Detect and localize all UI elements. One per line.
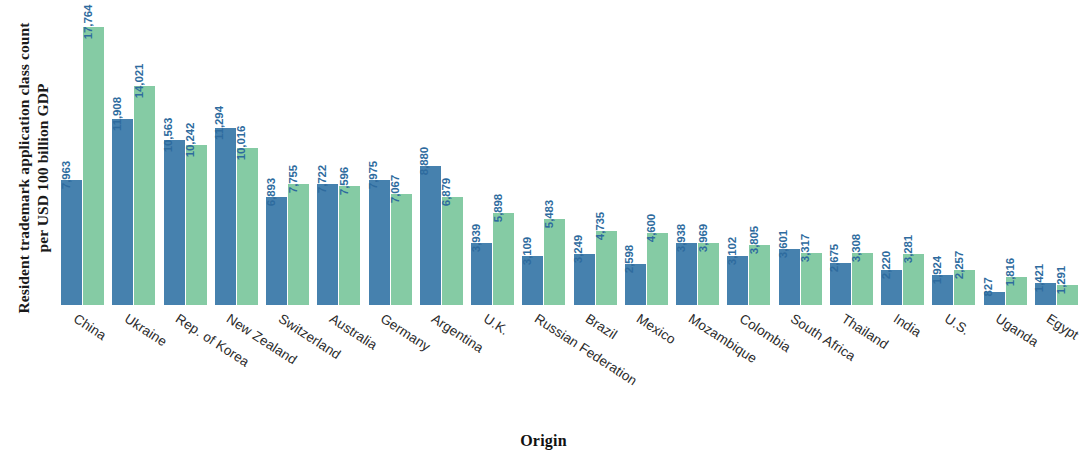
bar-group: 3,6013,317: [779, 14, 822, 305]
bar-value-label-holder: 3,938: [676, 195, 697, 241]
bar: [237, 148, 258, 305]
bar-value-label: 5,898: [492, 194, 504, 222]
bar-value-label-holder: 2,220: [881, 222, 902, 268]
bar: [420, 166, 441, 305]
bar-value-label-holder: 3,102: [727, 208, 748, 254]
bar-value-label: 7,963: [60, 161, 72, 189]
bar-value-label: 3,109: [521, 237, 533, 265]
bar-value-label-holder: 2,598: [625, 216, 646, 262]
bar-value-label-holder: 5,483: [544, 171, 565, 217]
bar-group: 3,9383,969: [676, 14, 719, 305]
bar-value-label-holder: 3,317: [801, 205, 822, 251]
bar-value-label: 10,016: [235, 126, 247, 161]
bar-value-label: 7,975: [367, 161, 379, 189]
bar-value-label-holder: 827: [984, 244, 1005, 290]
bar-value-label: 3,102: [726, 237, 738, 265]
bar: [647, 233, 668, 305]
bar-value-label: 2,220: [880, 251, 892, 279]
bar-value-label-holder: 7,975: [369, 132, 390, 178]
bar-group: 3,1095,483: [522, 14, 565, 305]
bar-value-label-holder: 10,016: [237, 100, 258, 146]
bar-value-label: 17,764: [82, 5, 94, 40]
bar-value-label-holder: 11,908: [112, 71, 133, 117]
bar-value-label-holder: 1,924: [932, 227, 953, 273]
bar-value-label-holder: 2,257: [954, 222, 975, 268]
bar-group: 1,4211,291: [1035, 14, 1078, 305]
bar-value-label: 3,601: [777, 230, 789, 258]
bar: [215, 128, 236, 305]
bar-value-label: 1,291: [1055, 266, 1067, 294]
bar-value-label-holder: 7,963: [61, 132, 82, 178]
bar-group: 8271,816: [984, 14, 1027, 305]
bar-value-label: 10,563: [162, 117, 174, 152]
bar: [339, 186, 360, 305]
bar: [596, 231, 617, 305]
bar-group: 8,8806,879: [420, 14, 463, 305]
bar: [61, 180, 82, 305]
bar-group: 2,5984,600: [625, 14, 668, 305]
bar-value-label: 3,308: [850, 234, 862, 262]
bar-value-label-holder: 3,249: [574, 206, 595, 252]
bar-value-label-holder: 7,755: [288, 136, 309, 182]
bar-value-label: 3,969: [697, 224, 709, 252]
bar-value-label: 10,242: [184, 122, 196, 157]
bar-value-label-holder: 3,601: [779, 201, 800, 247]
bar-value-label-holder: 1,291: [1057, 237, 1078, 283]
bar-value-label: 2,598: [623, 245, 635, 273]
bar-value-label-holder: 1,816: [1006, 229, 1027, 275]
bar-group: 3,1023,805: [727, 14, 770, 305]
bar: [391, 194, 412, 305]
bar: [471, 243, 492, 305]
bar-value-label: 5,483: [543, 200, 555, 228]
bar-value-label-holder: 7,722: [317, 136, 338, 182]
bar-value-label-holder: 3,308: [852, 205, 873, 251]
bar-value-label: 3,317: [799, 234, 811, 262]
bar-group: 6,8937,755: [266, 14, 309, 305]
bar-group: 10,56310,242: [164, 14, 207, 305]
bar-value-label-holder: 4,600: [647, 185, 668, 231]
bar-group: 11,29410,016: [215, 14, 258, 305]
bar-value-label-holder: 5,898: [493, 165, 514, 211]
bar-value-label: 6,879: [440, 178, 452, 206]
bar-group: 2,6753,308: [830, 14, 873, 305]
bar-value-label-holder: 8,880: [420, 118, 441, 164]
bar: [317, 184, 338, 305]
bar-value-label-holder: 7,067: [391, 146, 412, 192]
bar-group: 1,9242,257: [932, 14, 975, 305]
bar-value-label-holder: 6,893: [266, 149, 287, 195]
bar: [369, 180, 390, 305]
bar-value-label: 2,257: [953, 251, 965, 279]
bar-value-label: 11,908: [111, 97, 123, 131]
bar-value-label-holder: 7,596: [339, 138, 360, 184]
bar-value-label: 3,281: [902, 235, 914, 263]
bar-value-label: 4,735: [594, 212, 606, 240]
bar-value-label-holder: 3,805: [749, 197, 770, 243]
x-axis-tick-labels: ChinaUkraineRep. of KoreaNew ZealandSwit…: [57, 307, 1082, 427]
bar-value-label: 827: [982, 278, 994, 297]
bar-group: 3,9395,898: [471, 14, 514, 305]
bar-value-label-holder: 11,294: [215, 80, 236, 126]
bar-value-label: 11,294: [213, 106, 225, 140]
bar-value-label: 7,067: [389, 175, 401, 203]
bar-value-label: 3,249: [572, 235, 584, 263]
bar-value-label: 2,675: [828, 244, 840, 272]
bar-value-label: 3,805: [748, 226, 760, 254]
bar-value-label: 4,600: [645, 214, 657, 242]
bar: [266, 197, 287, 305]
bar-value-label: 1,421: [1033, 264, 1045, 292]
bar: [676, 243, 697, 305]
bar-value-label: 3,939: [470, 224, 482, 252]
bar-value-label-holder: 1,421: [1035, 235, 1056, 281]
bar-value-label: 1,816: [1004, 257, 1016, 285]
bar-value-label: 3,938: [675, 224, 687, 252]
bar-value-label: 7,755: [287, 165, 299, 193]
bar: [544, 219, 565, 305]
y-axis-title: Resident trademark application class cou…: [10, 13, 56, 323]
bar: [134, 86, 155, 305]
bar-value-label-holder: 10,242: [186, 97, 207, 143]
bar-group: 3,2494,735: [574, 14, 617, 305]
bar: [83, 27, 104, 305]
bar-value-label: 14,021: [133, 63, 145, 98]
bar-group: 7,96317,764: [61, 14, 104, 305]
bar-value-label-holder: 6,879: [442, 149, 463, 195]
